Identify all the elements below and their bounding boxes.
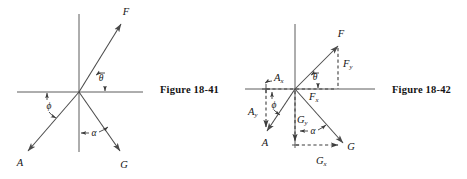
label-vector-G-41: G bbox=[120, 159, 128, 170]
label-component-Fy-sub: y bbox=[348, 63, 353, 70]
label-component-Ax-sub: x bbox=[279, 77, 283, 84]
Ax-leader-left-42 bbox=[265, 81, 272, 83]
label-angle-phi-41: ϕ bbox=[47, 101, 52, 111]
label-angle-theta-42: θ bbox=[313, 72, 318, 82]
label-angle-alpha-41: α bbox=[92, 128, 98, 138]
vector-G-41 bbox=[79, 92, 120, 151]
label-vector-G-42: G bbox=[347, 141, 355, 152]
label-component-Fx-sub: x bbox=[314, 96, 318, 103]
label-component-Fy-42: Fy bbox=[342, 58, 353, 70]
figure-18-42-caption: Figure 18-42 bbox=[392, 84, 451, 95]
label-component-Ax-42: Ax bbox=[273, 72, 283, 84]
figure-18-42-diagram: F A G Fy Fx Ay Ax Gy Gx θ ϕ α bbox=[235, 0, 395, 179]
figure-18-41-caption: Figure 18-41 bbox=[160, 84, 219, 95]
figure-18-41-diagram: F A G θ ϕ α bbox=[0, 0, 160, 179]
label-vector-F-42: F bbox=[337, 28, 345, 39]
label-component-Fx-42: Fx bbox=[308, 91, 318, 103]
label-vector-F-41: F bbox=[122, 6, 130, 17]
label-angle-theta-41: θ bbox=[99, 73, 104, 83]
vector-F-42 bbox=[295, 46, 338, 89]
label-component-Gx-sub: x bbox=[323, 160, 327, 167]
label-vector-A-41: A bbox=[16, 157, 24, 168]
label-vector-A-42: A bbox=[261, 137, 269, 148]
vector-A-41 bbox=[28, 92, 79, 151]
figure-sheet: F A G θ ϕ α Figure 18-41 bbox=[0, 0, 467, 179]
label-angle-phi-42: ϕ bbox=[272, 100, 277, 110]
label-component-Gy-42: Gy bbox=[297, 114, 309, 126]
label-component-Ay-sub: y bbox=[253, 111, 258, 118]
label-component-Ay-42: Ay bbox=[247, 106, 258, 118]
vector-A-42 bbox=[267, 89, 295, 131]
alpha-arc-right-42 bbox=[318, 125, 326, 130]
label-angle-alpha-42: α bbox=[311, 126, 317, 136]
label-component-Gy-sub: y bbox=[304, 119, 309, 126]
phi-arc-lower-41 bbox=[49, 112, 56, 118]
label-component-Gx-42: Gx bbox=[316, 155, 327, 167]
